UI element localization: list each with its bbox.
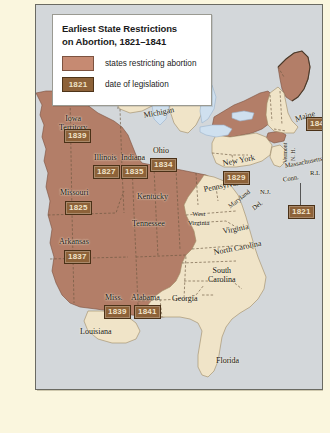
label-west-virginia: WestVirginia [188,210,209,227]
label-missouri: Missouri [60,188,88,197]
date-badge-indiana: 1835 [121,165,148,179]
label-indiana: Indiana [121,153,145,162]
label-south-carolina: SouthCarolina [208,267,236,284]
map-legend: Earliest State Restrictionson Abortion, … [52,14,212,106]
date-badge-illinois: 1827 [93,165,120,179]
label-new-jersey: N.J. [260,187,271,196]
label-louisiana: Louisiana [80,327,112,336]
date-badge-arkansas: 1837 [64,250,91,264]
lake-ontario [232,111,254,121]
legend-row-restricting: states restricting abortion [53,56,211,71]
date-badge-connecticut: 1821 [288,205,315,219]
legend-swatch-restricting [62,56,94,71]
date-badge-ohio: 1834 [150,158,177,172]
label-alabama: Alabama [131,293,160,302]
date-badge-missouri: 1825 [65,201,92,215]
label-illinois: Illinois [94,153,117,162]
label-florida: Florida [216,356,239,365]
label-arkansas: Arkansas [59,237,89,246]
date-badge-mississippi: 1839 [104,305,131,319]
label-tennessee: Tennessee [132,219,165,228]
date-badge-maine: 1840 [306,117,323,131]
label-ohio: Ohio [153,146,169,155]
label-rhode-island: R.I. [310,168,320,177]
legend-swatch-date: 1821 [62,77,94,92]
label-georgia: Georgia [172,294,198,303]
legend-label-restricting: states restricting abortion [105,59,196,68]
date-badge-iowa-territory: 1839 [64,129,91,143]
legend-label-date: date of legislation [105,80,169,89]
date-badge-new-york: 1829 [223,171,250,185]
date-badge-alabama: 1841 [134,305,161,319]
label-kentucky: Kentucky [137,192,168,201]
label-mississippi: Miss. [105,293,123,302]
legend-row-date: 1821 date of legislation [53,77,211,92]
connecticut-leader-line [300,183,301,207]
legend-title: Earliest State Restrictionson Abortion, … [53,15,211,48]
